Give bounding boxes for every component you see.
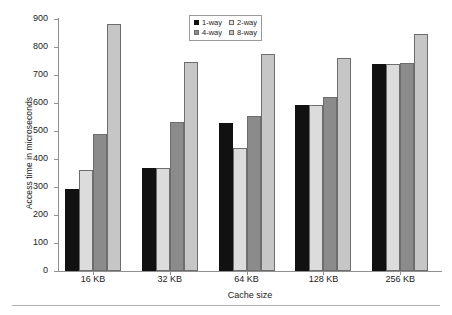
bar-group xyxy=(295,19,351,271)
bar-8-way-64KB xyxy=(261,54,275,271)
legend-swatch-icon xyxy=(229,30,234,35)
bar-2-way-64KB xyxy=(233,148,247,271)
y-tick-mark xyxy=(54,19,58,20)
bar-group xyxy=(372,19,428,271)
bar-1-way-64KB xyxy=(219,123,233,271)
x-tick-label: 256 KB xyxy=(360,274,440,284)
y-tick-label: 900 xyxy=(14,13,48,23)
bar-4-way-256KB xyxy=(400,63,414,271)
legend-label: 2-way xyxy=(237,18,257,27)
bar-2-way-16KB xyxy=(79,170,93,271)
legend-item-4-way: 4-way xyxy=(194,28,222,37)
y-tick-label: 700 xyxy=(14,69,48,79)
x-tick-label: 32 KB xyxy=(130,274,210,284)
chart-legend: 1-way2-way4-way8-way xyxy=(189,15,262,41)
x-tick-label: 128 KB xyxy=(283,274,363,284)
bar-1-way-256KB xyxy=(372,64,386,271)
bar-8-way-16KB xyxy=(107,24,121,271)
bar-8-way-32KB xyxy=(184,62,198,271)
y-tick-label: 500 xyxy=(14,125,48,135)
bar-8-way-128KB xyxy=(337,58,351,271)
x-axis-line xyxy=(58,271,442,272)
plot-area xyxy=(58,19,442,271)
y-tick-mark xyxy=(54,103,58,104)
y-tick-mark xyxy=(54,215,58,216)
x-tick-label: 16 KB xyxy=(53,274,133,284)
legend-label: 4-way xyxy=(202,28,222,37)
y-tick-mark xyxy=(54,271,58,272)
y-tick-mark xyxy=(54,75,58,76)
y-tick-mark xyxy=(54,243,58,244)
bar-1-way-128KB xyxy=(295,105,309,271)
legend-item-1-way: 1-way xyxy=(194,18,222,27)
bar-group xyxy=(219,19,275,271)
y-tick-mark xyxy=(54,187,58,188)
bar-8-way-256KB xyxy=(414,34,428,271)
bar-2-way-32KB xyxy=(156,168,170,271)
bar-2-way-256KB xyxy=(386,64,400,271)
y-tick-label: 300 xyxy=(14,181,48,191)
y-tick-label: 800 xyxy=(14,41,48,51)
legend-item-8-way: 8-way xyxy=(229,28,257,37)
y-tick-label: 0 xyxy=(14,265,48,275)
legend-swatch-icon xyxy=(194,20,199,25)
y-tick-label: 600 xyxy=(14,97,48,107)
bar-chart-figure: Access time in microseconds 010020030040… xyxy=(0,0,452,315)
bar-4-way-64KB xyxy=(247,116,261,271)
y-tick-label: 100 xyxy=(14,237,48,247)
legend-label: 8-way xyxy=(237,28,257,37)
x-axis-title: Cache size xyxy=(58,290,442,300)
bar-2-way-128KB xyxy=(309,105,323,271)
bar-group xyxy=(142,19,198,271)
y-tick-mark xyxy=(54,159,58,160)
y-tick-label: 400 xyxy=(14,153,48,163)
bar-4-way-16KB xyxy=(93,134,107,271)
bar-1-way-16KB xyxy=(65,189,79,271)
y-tick-mark xyxy=(54,47,58,48)
bar-1-way-32KB xyxy=(142,168,156,271)
legend-label: 1-way xyxy=(202,18,222,27)
legend-swatch-icon xyxy=(229,20,234,25)
bar-group xyxy=(65,19,121,271)
legend-item-2-way: 2-way xyxy=(229,18,257,27)
bar-4-way-128KB xyxy=(323,97,337,271)
y-tick-label: 200 xyxy=(14,209,48,219)
footer-divider xyxy=(12,305,440,306)
bar-4-way-32KB xyxy=(170,122,184,271)
y-tick-mark xyxy=(54,131,58,132)
legend-swatch-icon xyxy=(194,30,199,35)
x-tick-label: 64 KB xyxy=(207,274,287,284)
